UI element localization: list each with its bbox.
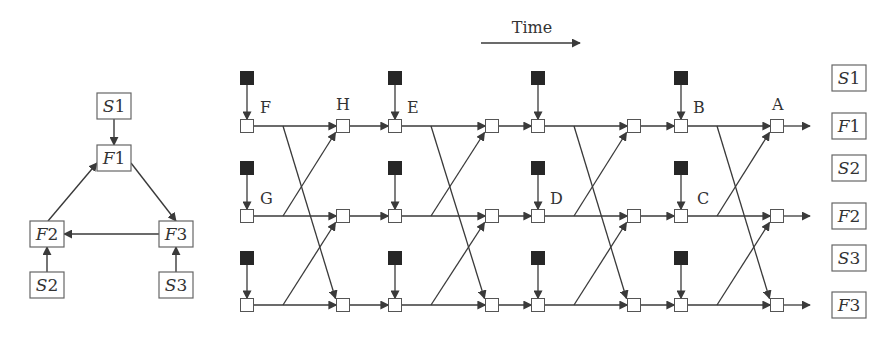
source-block xyxy=(241,72,254,85)
row-labels: S1F1S2F2S3F3 xyxy=(832,65,866,318)
diag-f2-f1 xyxy=(717,133,770,217)
timeline-node xyxy=(532,299,545,312)
time-label: Time xyxy=(512,18,552,37)
event-label-D: D xyxy=(550,189,563,208)
event-label-G: G xyxy=(260,189,273,208)
timeline-node xyxy=(337,299,350,312)
diag-f2-f1 xyxy=(574,133,627,217)
network-graph: S1F1F2F3S2S3 xyxy=(30,93,193,298)
graph-node-F2: F2 xyxy=(30,221,64,247)
source-block xyxy=(241,252,254,265)
label-text: F3 xyxy=(837,295,861,315)
timeline-node xyxy=(241,299,254,312)
label-text: S1 xyxy=(103,96,125,116)
diag-f1-f3 xyxy=(574,126,627,299)
label-text: S3 xyxy=(165,275,187,295)
row-label-S1: S1 xyxy=(832,65,866,91)
label-text: F3 xyxy=(164,224,188,244)
timeline-node xyxy=(486,299,499,312)
label-text: F1 xyxy=(837,116,861,136)
event-label-A: A xyxy=(771,95,784,114)
label-text: F2 xyxy=(35,224,59,244)
source-block xyxy=(675,252,688,265)
row-label-F3: F3 xyxy=(832,292,866,318)
diag-f2-f1 xyxy=(431,133,485,217)
timeline-node xyxy=(771,120,784,133)
source-block xyxy=(532,162,545,175)
timeline-node xyxy=(241,210,254,223)
source-block xyxy=(389,72,402,85)
graph-node-F3: F3 xyxy=(159,221,193,247)
diag-f3-f2 xyxy=(431,223,485,306)
label-text: S2 xyxy=(36,275,58,295)
diag-f1-f3 xyxy=(283,126,336,299)
timeline-node xyxy=(628,210,641,223)
row-label-F1: F1 xyxy=(832,113,866,139)
event-labels: FHEGDBCA xyxy=(260,95,784,208)
graph-node-S1: S1 xyxy=(97,93,131,119)
timeline-node xyxy=(532,120,545,133)
timeline-node xyxy=(675,299,688,312)
source-block xyxy=(532,252,545,265)
source-block xyxy=(389,252,402,265)
label-text: F2 xyxy=(837,206,861,226)
graph-node-S3: S3 xyxy=(159,272,193,298)
timeline-node xyxy=(389,299,402,312)
diag-f3-f2 xyxy=(717,223,770,306)
label-text: S2 xyxy=(838,158,860,178)
time-indicator: Time xyxy=(481,18,580,43)
edge-F2-F1 xyxy=(48,163,97,221)
graph-node-F1: F1 xyxy=(97,145,131,171)
row-label-S2: S2 xyxy=(832,155,866,181)
row-label-S3: S3 xyxy=(832,245,866,271)
event-label-F: F xyxy=(260,98,271,117)
event-label-C: C xyxy=(697,189,709,208)
label-text: F1 xyxy=(102,148,126,168)
timeline-node xyxy=(675,120,688,133)
timeline-node xyxy=(486,120,499,133)
timeline-node xyxy=(628,120,641,133)
timeline-node xyxy=(532,210,545,223)
source-block xyxy=(675,162,688,175)
event-label-E: E xyxy=(407,98,419,117)
edge-F1-F3 xyxy=(131,163,176,221)
diag-f1-f3 xyxy=(717,126,770,299)
timeline-node xyxy=(337,210,350,223)
timeline-node xyxy=(389,210,402,223)
timeline-node xyxy=(337,120,350,133)
source-block xyxy=(675,72,688,85)
graph-node-S2: S2 xyxy=(30,272,64,298)
label-text: S1 xyxy=(838,68,860,88)
timeline-node xyxy=(628,299,641,312)
timeline-node xyxy=(675,210,688,223)
event-label-H: H xyxy=(336,95,350,114)
source-block xyxy=(241,162,254,175)
timeline-node xyxy=(771,210,784,223)
source-block xyxy=(389,162,402,175)
timeline-node xyxy=(389,120,402,133)
diag-f1-f3 xyxy=(431,126,485,299)
event-label-B: B xyxy=(693,98,705,117)
timeline-node xyxy=(241,120,254,133)
row-label-F2: F2 xyxy=(832,203,866,229)
timeline-edges xyxy=(247,85,810,306)
diag-f2-f1 xyxy=(283,133,336,217)
source-block xyxy=(532,72,545,85)
label-text: S3 xyxy=(838,248,860,268)
flow-diagram: S1F1F2F3S2S3 Time FHEGDBCA S1F1S2F2S3F3 xyxy=(0,0,892,339)
timeline-node xyxy=(771,299,784,312)
diag-f3-f2 xyxy=(283,223,336,306)
diag-f3-f2 xyxy=(574,223,627,306)
timeline-node xyxy=(486,210,499,223)
